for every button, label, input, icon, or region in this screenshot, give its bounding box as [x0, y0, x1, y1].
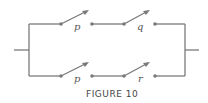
switch-label-bottom-r: r: [138, 73, 144, 84]
switch-label-top-p: p: [74, 21, 81, 32]
switch-label-bottom-p: p: [74, 73, 81, 84]
circuit-diagram: p q p r FIGURE 10: [0, 0, 208, 103]
switch-arm-top-q: [124, 11, 148, 24]
switch-arm-bottom-r: [124, 63, 148, 76]
switch-label-top-q: q: [137, 21, 143, 32]
figure-caption: FIGURE 10: [86, 89, 138, 99]
arrowheads: [82, 10, 150, 67]
wires: [14, 11, 199, 76]
